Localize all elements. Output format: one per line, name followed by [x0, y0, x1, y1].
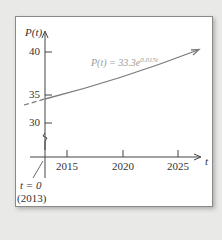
x-axis-label: t	[205, 156, 208, 167]
y-axis-label: P(t)	[25, 27, 42, 38]
origin-year-label: (2013)	[17, 193, 46, 204]
x-tick-label-2020: 2020	[112, 161, 134, 172]
origin-t0-label: t = 0	[20, 180, 41, 191]
formula-main: P(t) = 33.3e	[91, 57, 140, 68]
origin-pointer	[33, 161, 43, 178]
x-tick-label-2015: 2015	[56, 161, 78, 172]
x-tick-label-2025: 2025	[167, 161, 189, 172]
y-tick-label-35: 35	[29, 89, 40, 100]
formula-exponent: 0.015t	[140, 56, 158, 64]
y-tick-label-40: 40	[29, 46, 40, 57]
formula-label: P(t) = 33.3e0.015t	[91, 57, 158, 68]
y-tick-label-30: 30	[29, 117, 40, 128]
